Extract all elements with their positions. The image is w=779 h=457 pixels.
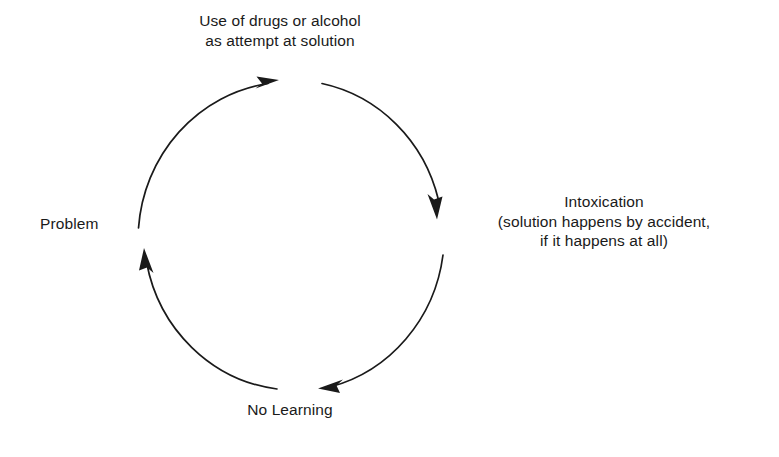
node-label-intoxication-line-1: Intoxication bbox=[468, 192, 740, 212]
node-label-problem: Problem bbox=[40, 214, 98, 234]
node-label-intoxication-line-2: (solution happens by accident, bbox=[468, 212, 740, 232]
node-label-drug-use-line-1: Use of drugs or alcohol bbox=[199, 12, 361, 29]
node-label-intoxication-line-3: if it happens at all) bbox=[468, 231, 740, 251]
node-label-drug-use-line-2: as attempt at solution bbox=[0, 31, 560, 51]
node-label-intoxication: Intoxication (solution happens by accide… bbox=[468, 192, 740, 251]
arrowhead-to-drug-use bbox=[256, 77, 280, 89]
arc-intoxication-to-no-learning bbox=[330, 255, 443, 387]
node-label-drug-use: Use of drugs or alcohol as attempt at so… bbox=[0, 11, 560, 50]
arrowhead-to-problem bbox=[139, 248, 154, 273]
diagram-canvas: Use of drugs or alcohol as attempt at so… bbox=[0, 0, 779, 457]
arc-problem-to-drug-use bbox=[139, 84, 269, 229]
arrowhead-to-no-learning bbox=[318, 380, 343, 394]
arc-no-learning-to-problem bbox=[147, 262, 278, 389]
arrowhead-to-intoxication bbox=[428, 194, 443, 220]
arc-drug-use-to-intoxication bbox=[322, 84, 439, 201]
node-label-no-learning: No Learning bbox=[205, 400, 375, 420]
